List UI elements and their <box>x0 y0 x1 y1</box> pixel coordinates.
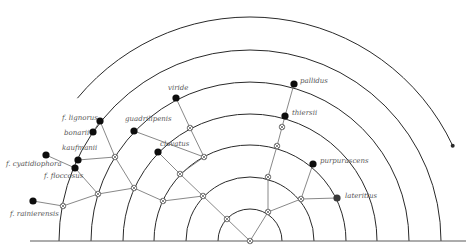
internal-node-icon <box>224 216 230 222</box>
taxon-labels: f. lignorusbonariikaufmaniif. floccosusf… <box>5 77 378 218</box>
tree-edge <box>115 157 134 188</box>
taxon-label-bonarii: bonarii <box>64 129 89 137</box>
outer-arc <box>77 17 452 146</box>
internal-node-icon <box>131 185 137 191</box>
tree-edge <box>33 201 63 206</box>
internal-node-icon <box>200 193 206 199</box>
leaf-node-thiersii <box>281 112 288 119</box>
internal-node-icon <box>112 154 118 160</box>
phylogeny-diagram: f. lignorusbonariikaufmaniif. floccosusf… <box>0 0 468 251</box>
tree-edge <box>268 199 301 212</box>
taxon-label-f-cyatidiophora: f. cyatidiophora <box>5 160 62 168</box>
tree-edge <box>277 116 285 146</box>
leaf-node-pallidus <box>290 80 297 87</box>
internal-node-icon <box>265 174 271 180</box>
tree-edge <box>227 219 250 241</box>
tree-edge <box>203 196 227 219</box>
taxon-label-pallidus: pallidus <box>300 77 328 85</box>
internal-node-icon <box>274 143 280 149</box>
internal-node-icon <box>187 125 193 131</box>
leaf-node-kaufmanii <box>74 156 81 163</box>
leaf-node-lateritius <box>333 194 340 201</box>
taxon-label-guadrilipenis: guadrilipenis <box>125 115 172 123</box>
tree-edge <box>78 157 115 160</box>
leaf-node-f-floccosus <box>71 164 78 171</box>
leaf-node-f-cyatidiophora <box>42 151 49 158</box>
taxon-label-lateritius: lateritius <box>345 192 378 200</box>
leaf-node-f-rainierensis <box>29 197 36 204</box>
tree-edge <box>180 174 203 196</box>
tree-edge <box>63 194 98 206</box>
arc-ring <box>154 145 346 241</box>
arc-ring <box>218 209 282 241</box>
tree-edge <box>163 196 203 201</box>
concentric-arcs <box>59 17 455 241</box>
taxon-label-viride: viride <box>168 84 188 92</box>
tree-edge <box>158 152 180 174</box>
leaf-node-guadrilipenis <box>130 127 137 134</box>
taxon-label-f-lignorus: f. lignorus <box>61 114 98 122</box>
taxon-label-clavatus: clavatus <box>160 140 190 148</box>
internal-node-icon <box>95 191 101 197</box>
taxon-label-f-rainierensis: f. rainierensis <box>9 210 59 218</box>
internal-node-icon <box>247 238 253 244</box>
leaf-node-purpurascens <box>309 160 316 167</box>
tree-edge <box>301 198 337 199</box>
arrow-tip-icon <box>451 144 455 148</box>
internal-node-icon <box>160 198 166 204</box>
taxon-label-purpurascens: purpurascens <box>320 157 369 165</box>
taxon-label-f-floccosus: f. floccosus <box>43 172 84 180</box>
taxon-label-kaufmanii: kaufmanii <box>62 144 97 152</box>
leaf-node-bonarii <box>89 128 96 135</box>
tree-edge <box>250 212 268 241</box>
tree-edge <box>268 146 277 177</box>
internal-node-icon <box>279 124 285 130</box>
internal-node-icon <box>201 154 207 160</box>
internal-node-icon <box>60 203 66 209</box>
taxon-label-thiersii: thiersii <box>292 109 317 117</box>
tree-edge <box>176 98 190 128</box>
tree-edge <box>180 157 204 174</box>
tree-edge <box>134 188 163 201</box>
tree-edge <box>100 121 115 157</box>
tree-edge <box>98 188 134 194</box>
tree-edge <box>301 164 313 199</box>
internal-node-icon <box>265 209 271 215</box>
internal-node-icon <box>298 196 304 202</box>
internal-node-icon <box>177 171 183 177</box>
leaf-node-viride <box>172 94 179 101</box>
leaf-node-clavatus <box>154 148 161 155</box>
